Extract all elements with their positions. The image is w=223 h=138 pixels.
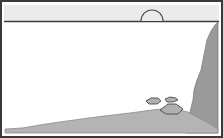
rock-small-right [165,97,178,102]
landscape-drawing [0,0,223,138]
sky-band [4,5,219,21]
illustration-canvas: Grayscale landscape line drawing [0,0,223,138]
